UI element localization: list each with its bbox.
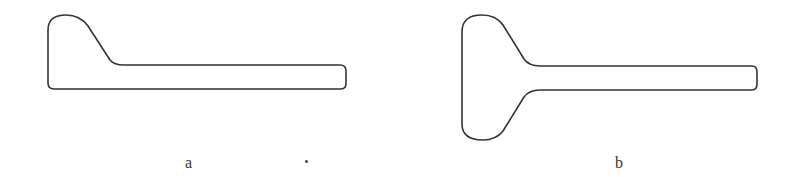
figure-canvas: [0, 0, 800, 185]
shape-a-outline: [48, 15, 346, 89]
shape-b-outline: [462, 15, 757, 140]
panel-label-b: b: [615, 154, 623, 172]
panel-label-a: a: [185, 154, 192, 172]
